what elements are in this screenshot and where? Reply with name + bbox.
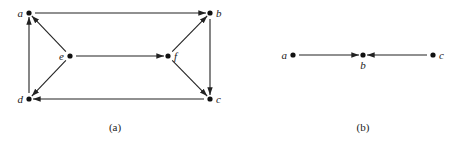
node-label-c: c bbox=[439, 49, 444, 61]
caption-b: (b) bbox=[357, 121, 370, 134]
node-label-d: d bbox=[18, 93, 24, 105]
edge-e-to-d bbox=[32, 60, 66, 96]
node-label-f: f bbox=[174, 50, 179, 62]
graph-a: abcdef bbox=[18, 7, 223, 105]
node-f bbox=[165, 53, 170, 58]
node-label-a: a bbox=[18, 7, 24, 19]
node-d bbox=[26, 96, 31, 101]
node-b bbox=[207, 10, 212, 15]
edge-f-to-c bbox=[172, 60, 207, 96]
node-label-b: b bbox=[216, 7, 222, 19]
caption-a: (a) bbox=[109, 121, 122, 134]
digraph-figure: abcdef abc (a) (b) bbox=[0, 0, 460, 142]
edge-f-to-b bbox=[172, 16, 207, 52]
edge-e-to-a bbox=[32, 16, 66, 52]
node-label-c: c bbox=[216, 93, 221, 105]
node-label-e: e bbox=[59, 50, 64, 62]
node-label-a: a bbox=[282, 49, 288, 61]
node-b bbox=[360, 52, 365, 57]
node-e bbox=[67, 53, 72, 58]
node-a bbox=[26, 10, 31, 15]
node-c bbox=[207, 96, 212, 101]
node-c bbox=[430, 52, 435, 57]
node-a bbox=[290, 52, 295, 57]
node-label-b: b bbox=[360, 59, 366, 71]
graph-b: abc bbox=[282, 49, 445, 71]
